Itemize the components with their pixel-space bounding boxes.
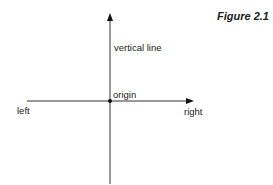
origin-point xyxy=(108,99,112,103)
right-label: right xyxy=(184,107,202,117)
origin-label: origin xyxy=(113,90,136,100)
vertical-line-label: vertical line xyxy=(114,43,162,53)
left-label: left xyxy=(17,106,30,116)
axes-diagram xyxy=(0,0,273,185)
up-arrow-icon xyxy=(107,13,113,21)
figure-caption: Figure 2.1 xyxy=(217,10,269,22)
right-arrow-icon xyxy=(186,98,194,104)
